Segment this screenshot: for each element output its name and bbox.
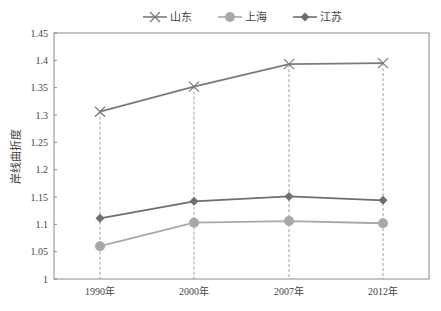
y-tick-label: 1.15 (31, 192, 49, 203)
circle-marker-icon (378, 218, 388, 228)
y-tick-label: 1.3 (36, 110, 49, 121)
series-2 (96, 192, 388, 223)
x-axis: 1990年2000年2007年2012年 (85, 285, 398, 297)
y-tick-label: 1.35 (31, 82, 49, 93)
legend-label: 山东 (170, 11, 192, 23)
legend-label: 上海 (245, 10, 267, 23)
diamond-marker-icon (285, 192, 294, 201)
circle-marker-icon (95, 241, 105, 251)
drop-lines (100, 63, 383, 279)
diamond-marker-icon (301, 13, 310, 22)
x-tick-label: 2007年 (274, 285, 304, 297)
plot-area (54, 33, 429, 279)
series-0 (95, 58, 388, 117)
y-tick-label: 1 (43, 274, 48, 285)
legend: 山东上海江苏 (143, 10, 342, 23)
y-tick-label: 1.05 (31, 246, 49, 257)
circle-marker-icon (189, 218, 199, 228)
circle-marker-icon (284, 216, 294, 226)
series-line (100, 221, 383, 246)
plot-border (54, 33, 429, 279)
series-group (95, 58, 388, 251)
x-tick-label: 2000年 (179, 285, 209, 297)
series-1 (95, 216, 388, 251)
legend-label: 江苏 (320, 11, 342, 23)
y-tick-label: 1.25 (31, 137, 49, 148)
diamond-marker-icon (96, 214, 105, 223)
circle-marker-icon (225, 12, 235, 22)
y-tick-label: 1.1 (36, 219, 49, 230)
y-axis-title: 岸线曲折度 (9, 129, 22, 184)
y-tick-label: 1.45 (31, 28, 49, 39)
diamond-marker-icon (379, 196, 388, 205)
series-line (100, 63, 383, 112)
legend-item: 上海 (218, 10, 267, 23)
line-chart: 山东上海江苏 11.051.11.151.21.251.31.351.41.45… (0, 0, 441, 311)
y-tick-label: 1.4 (36, 55, 49, 66)
legend-item: 江苏 (293, 11, 342, 23)
y-axis: 11.051.11.151.21.251.31.351.41.45 (31, 28, 58, 285)
legend-item: 山东 (143, 11, 192, 23)
y-tick-label: 1.2 (36, 164, 49, 175)
x-tick-label: 2012年 (368, 285, 398, 297)
x-tick-label: 1990年 (85, 285, 115, 297)
series-line (100, 196, 383, 218)
diamond-marker-icon (190, 197, 199, 206)
